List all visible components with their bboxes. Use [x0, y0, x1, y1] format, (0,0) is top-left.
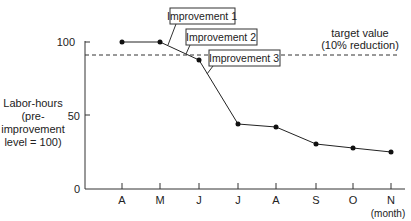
x-tick-labels: A M J J A S O N [118, 194, 395, 206]
ytick-100: 100 [57, 36, 75, 48]
svg-text:Improvement 2: Improvement 2 [186, 31, 256, 43]
ytick-50: 50 [68, 110, 80, 122]
svg-text:S: S [312, 194, 319, 206]
ytick-0: 0 [74, 183, 80, 195]
svg-text:Improvement 3: Improvement 3 [209, 52, 279, 64]
svg-text:O: O [349, 194, 358, 206]
svg-text:J: J [196, 194, 202, 206]
svg-text:level = 100): level = 100) [4, 136, 61, 148]
svg-text:improvement: improvement [1, 123, 65, 135]
annotation-improvement-3: Improvement 3 [207, 50, 280, 74]
svg-text:J: J [235, 194, 241, 206]
svg-text:(pre-: (pre- [21, 110, 45, 122]
svg-text:(10% reduction): (10% reduction) [321, 39, 399, 51]
svg-text:N: N [387, 194, 395, 206]
svg-text:Improvement 1: Improvement 1 [167, 10, 237, 22]
x-axis-label: (month) [371, 208, 405, 219]
svg-text:M: M [155, 194, 164, 206]
y-axis-label: Labor-hours (pre- improvement level = 10… [1, 97, 65, 148]
svg-text:A: A [272, 194, 280, 206]
target-label: target value (10% reduction) [321, 27, 399, 51]
svg-text:target value: target value [331, 27, 388, 39]
chart: 100 50 0 Labor-hours (pre- improvement l… [0, 0, 411, 221]
x-ticks [122, 183, 391, 189]
svg-text:A: A [118, 194, 126, 206]
svg-text:Labor-hours: Labor-hours [3, 97, 63, 109]
